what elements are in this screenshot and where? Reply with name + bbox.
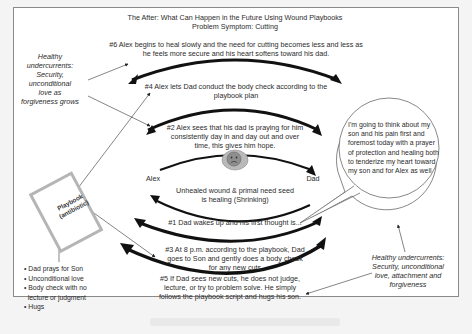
figure-caption-blur [150, 318, 340, 326]
step-3-text: #3 At 8 p.m. according to the playbook, … [150, 245, 320, 272]
bullet-item: Unconditional love [24, 274, 87, 284]
undercurrent-line: Security, unconditional [360, 262, 456, 271]
step-4-line: #4 Alex lets Dad conduct the body check … [120, 82, 352, 91]
step-3-line: goes to Son and gently does a body check [150, 254, 320, 263]
title-line-2: Problem Symptom: Cutting [70, 22, 400, 31]
title-line-1: The After: What Can Happen in the Future… [70, 13, 400, 22]
wound-caption-line: Unhealed wound & primal need seed [160, 186, 310, 195]
step-5-text: #5 If Dad sees new cuts, he does not jud… [140, 274, 320, 301]
undercurrent-line: forgiveness [360, 280, 456, 289]
step-2-text: #2 Alex sees that his dad is praying for… [150, 123, 320, 150]
dad-label: Dad [298, 174, 328, 183]
bullet-item: Dad prays for Son [24, 264, 87, 274]
step-5-line: follows the playbook script and hugs his… [140, 292, 320, 301]
wound-caption-line: is healing (Shrinking) [160, 195, 310, 204]
step-2-line: time, this gives him hope. [150, 141, 320, 150]
thought-bubble-text: I'm going to think about my son and his … [348, 120, 440, 175]
wound-caption: Unhealed wound & primal need seed is hea… [160, 186, 310, 204]
step-6-text: #6 Alex begins to heal slowly and the ne… [108, 40, 364, 58]
undercurrent-line: Healthy [14, 52, 86, 61]
alex-label: Alex [138, 174, 168, 183]
step-3-line: #3 At 8 p.m. according to the playbook, … [150, 245, 320, 254]
undercurrent-line: love as [14, 88, 86, 97]
healthy-undercurrents-right: Healthy undercurrents: Security, uncondi… [360, 253, 456, 289]
sad-face-wound-icon [222, 150, 248, 170]
bullet-item: Hugs [24, 302, 87, 312]
step-5-line: #5 If Dad sees new cuts, he does not jud… [140, 274, 320, 283]
playbook-bullet-list: Dad prays for Son Unconditional love Bod… [24, 264, 87, 312]
bullet-item: Body check with no [24, 283, 87, 293]
step-1-text: #1 Dad wakes up and his first thought is… [150, 218, 320, 227]
healthy-undercurrents-left: Healthy undercurrents: Security, uncondi… [14, 52, 86, 106]
undercurrent-line: Healthy undercurrents: [360, 253, 456, 262]
step-3-line: for any new cuts [150, 263, 320, 272]
undercurrent-line: forgiveness grows [14, 97, 86, 106]
step-2-line: #2 Alex sees that his dad is praying for… [150, 123, 320, 132]
step-4-line: playbook plan [120, 91, 352, 100]
undercurrent-line: love, attachment and [360, 271, 456, 280]
step-5-line: lecture, or try to problem solve. He sim… [140, 283, 320, 292]
undercurrent-line: unconditional [14, 79, 86, 88]
undercurrent-line: undercurrents: [14, 61, 86, 70]
diagram-title: The After: What Can Happen in the Future… [70, 13, 400, 31]
bullet-item: lecture or judgment [24, 293, 87, 303]
undercurrent-line: Security, [14, 70, 86, 79]
step-4-text: #4 Alex lets Dad conduct the body check … [120, 82, 352, 100]
step-2-line: consistently day in and day out and over [150, 132, 320, 141]
